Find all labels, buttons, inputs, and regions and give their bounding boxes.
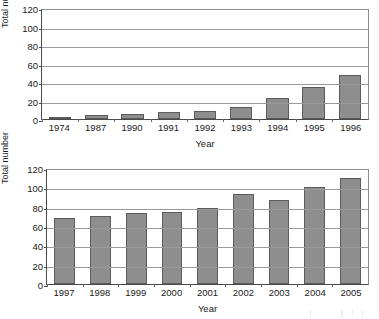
chart-2-plot-area — [46, 169, 369, 285]
chart-2-x-tick-labels: 199719981999200020012002200320042005 — [46, 287, 369, 298]
gridline — [47, 209, 368, 210]
bar[interactable] — [121, 114, 143, 119]
chart-1-y-tick-labels: 020406080100120 — [14, 9, 38, 120]
y-tick-label: 20 — [32, 262, 43, 271]
y-tick-label: 60 — [32, 223, 43, 232]
bar[interactable] — [126, 213, 147, 284]
y-tick-label: 0 — [38, 281, 43, 290]
gridline — [47, 267, 368, 268]
chart-1-x-axis-title: Year — [41, 138, 369, 149]
y-tick-label: 100 — [22, 24, 38, 33]
x-tick-label: 2002 — [225, 287, 261, 298]
gridline — [42, 66, 368, 67]
y-tick-label: 60 — [27, 61, 38, 70]
y-tick-label: 120 — [27, 165, 43, 174]
y-tick-label: 20 — [27, 98, 38, 107]
x-tick-label: 2005 — [333, 287, 369, 298]
chart-1-x-tick-labels: 197419871990199119921993199419951996 — [41, 122, 369, 133]
bar[interactable] — [49, 117, 71, 119]
y-tick-label: 100 — [27, 184, 43, 193]
gridline — [47, 247, 368, 248]
x-tick-label: 1992 — [187, 122, 223, 133]
gridline — [42, 103, 368, 104]
y-tick-label: 40 — [32, 242, 43, 251]
gridline — [47, 228, 368, 229]
chart-2-y-tick-labels: 020406080100120 — [19, 169, 43, 285]
bar[interactable] — [90, 216, 111, 284]
x-tick-label: 1974 — [41, 122, 77, 133]
x-tick-label: 1987 — [77, 122, 113, 133]
x-tick-label: 2001 — [190, 287, 226, 298]
gridline — [42, 47, 368, 48]
x-tick-label: 1999 — [118, 287, 154, 298]
x-tick-label: 1994 — [260, 122, 296, 133]
bar[interactable] — [269, 200, 290, 284]
bar[interactable] — [233, 194, 254, 284]
bar[interactable] — [158, 112, 180, 119]
bar-chart-1974-1996: Total number 020406080100120 19741987199… — [0, 0, 379, 158]
chart-1-y-axis-title: Total number — [0, 14, 14, 118]
x-tick-label: 1996 — [333, 122, 369, 133]
scan-artifact — [304, 310, 376, 317]
bar[interactable] — [266, 98, 288, 119]
bar[interactable] — [339, 75, 361, 119]
y-tick-mark — [39, 10, 42, 11]
x-tick-label: 1991 — [150, 122, 186, 133]
y-tick-label: 40 — [27, 79, 38, 88]
x-tick-label: 1997 — [46, 287, 82, 298]
y-tick-label: 80 — [27, 42, 38, 51]
bar[interactable] — [230, 107, 252, 119]
y-tick-label: 0 — [33, 116, 38, 125]
chart-2-y-axis-title: Total number — [0, 170, 14, 282]
x-tick-label: 2000 — [154, 287, 190, 298]
bar[interactable] — [304, 187, 325, 284]
y-tick-mark — [44, 170, 47, 171]
x-tick-label: 1990 — [114, 122, 150, 133]
x-tick-label: 1995 — [296, 122, 332, 133]
bar[interactable] — [340, 178, 361, 284]
gridline — [42, 29, 368, 30]
x-tick-label: 1993 — [223, 122, 259, 133]
gridline — [42, 84, 368, 85]
gridline — [47, 189, 368, 190]
chart-1-plot-area — [41, 9, 369, 120]
x-tick-label: 2004 — [297, 287, 333, 298]
y-tick-label: 80 — [32, 204, 43, 213]
y-tick-label: 120 — [22, 5, 38, 14]
x-tick-label: 2003 — [261, 287, 297, 298]
x-tick-label: 1998 — [82, 287, 118, 298]
bar[interactable] — [197, 208, 218, 284]
bar-chart-1997-2005: Total number 020406080100120 19971998199… — [0, 158, 379, 319]
bar[interactable] — [85, 115, 107, 119]
bar[interactable] — [194, 111, 216, 119]
